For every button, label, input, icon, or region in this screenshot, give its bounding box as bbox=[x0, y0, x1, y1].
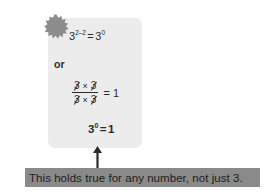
equation-rhs-exponent: 0 bbox=[102, 29, 106, 36]
numerator-term-1: 3 bbox=[73, 80, 81, 91]
fraction-block: 3 × 3 3 × 3 = 1 bbox=[72, 80, 119, 105]
denominator-term-2: 3 bbox=[90, 94, 98, 105]
equation-lhs-exponent: 2–2 bbox=[75, 29, 86, 36]
equation-exponent-form: 32–2=30 bbox=[69, 30, 105, 42]
or-connector-label: or bbox=[54, 59, 65, 70]
final-exponent: 0 bbox=[94, 122, 98, 129]
fraction-result-value: 1 bbox=[113, 87, 119, 99]
caption-text: This holds true for any number, not just… bbox=[29, 172, 243, 184]
starburst-icon bbox=[44, 14, 69, 39]
fraction-equals-sign: = bbox=[103, 87, 109, 99]
numerator-term-2: 3 bbox=[90, 80, 98, 91]
denominator-term-1: 3 bbox=[73, 94, 81, 105]
fraction: 3 × 3 3 × 3 bbox=[72, 80, 98, 105]
caption-bar: This holds true for any number, not just… bbox=[25, 168, 260, 187]
callout-arrow-icon bbox=[92, 146, 103, 169]
fraction-numerator: 3 × 3 bbox=[72, 80, 98, 91]
final-equals-sign: = bbox=[100, 123, 107, 135]
fraction-bar bbox=[72, 92, 98, 93]
equation-final: 30=1 bbox=[88, 122, 114, 135]
fraction-equals-result: = 1 bbox=[103, 87, 119, 99]
fraction-denominator: 3 × 3 bbox=[72, 94, 98, 105]
numerator-times-icon: × bbox=[83, 81, 88, 91]
equals-sign: = bbox=[87, 30, 94, 42]
denominator-times-icon: × bbox=[83, 95, 88, 105]
final-result: 1 bbox=[108, 123, 114, 135]
